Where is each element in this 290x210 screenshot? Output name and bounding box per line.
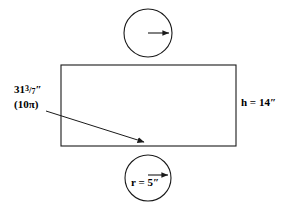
circumference-label: 313/7″ (10π) bbox=[14, 84, 42, 111]
height-label: h = 14″ bbox=[241, 97, 276, 109]
circumference-value: 313/7″ bbox=[14, 84, 42, 96]
circumference-alternate: (10π) bbox=[14, 99, 42, 111]
lateral-surface-rectangle bbox=[61, 65, 236, 146]
cylinder-net-diagram: 313/7″ (10π) h = 14″ r = 5″ bbox=[0, 0, 290, 210]
radius-label: r = 5″ bbox=[131, 177, 159, 189]
circumference-unit: ″ bbox=[36, 83, 42, 95]
circumference-whole: 31 bbox=[14, 83, 25, 95]
